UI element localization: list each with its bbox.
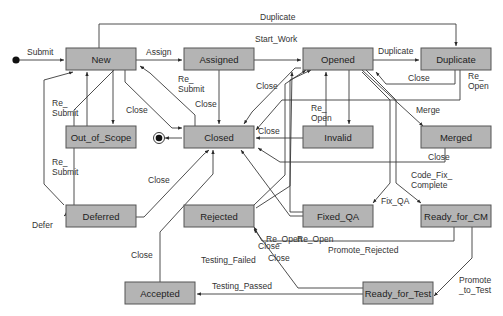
transition-label: Close bbox=[195, 99, 217, 109]
state-duplicate: Duplicate bbox=[421, 48, 491, 70]
transition-opened-close bbox=[244, 68, 301, 124]
state-merged: Merged bbox=[421, 126, 491, 148]
transition-label: Close bbox=[148, 175, 170, 185]
state-label: Merged bbox=[440, 132, 472, 143]
state-closed: Closed bbox=[184, 126, 254, 148]
transition-label: Close bbox=[258, 241, 280, 251]
state-assigned: Assigned bbox=[184, 48, 254, 70]
state-fixed-qa: Fixed_QA bbox=[303, 205, 373, 227]
transition-label: Re_Submit bbox=[52, 157, 79, 177]
transition-label: Code_Fix_Complete bbox=[411, 170, 452, 190]
state-invalid: Invalid bbox=[303, 126, 373, 148]
initial-state-icon bbox=[12, 56, 19, 63]
state-label: Ready_for_CM bbox=[424, 211, 488, 222]
transition-label: Re_Submit bbox=[52, 98, 79, 118]
transition-label: Testing_Failed bbox=[201, 255, 256, 265]
transition-label: Close bbox=[131, 250, 153, 260]
transition-label: Submit bbox=[27, 47, 54, 57]
final-state-icon bbox=[154, 133, 165, 144]
state-label: Rejected bbox=[200, 211, 238, 222]
state-label: Ready_for_Test bbox=[365, 288, 432, 299]
state-label: Deferred bbox=[83, 211, 120, 222]
transition-label: Re_Open bbox=[468, 71, 489, 91]
state-label: Duplicate bbox=[436, 54, 476, 65]
transition-rejected-close bbox=[256, 72, 292, 208]
transition-label: Promote_Rejected bbox=[328, 245, 399, 255]
state-rejected: Rejected bbox=[184, 205, 254, 227]
transition-label: Close bbox=[428, 152, 450, 162]
transition-label: Defer bbox=[32, 220, 53, 230]
state-label: Fixed_QA bbox=[317, 211, 360, 222]
transition-label: Merge bbox=[416, 105, 440, 115]
state-label: Invalid bbox=[324, 132, 351, 143]
state-out-of-scope: Out_of_Scope bbox=[66, 126, 136, 148]
state-label: Opened bbox=[321, 54, 355, 65]
transition-label: Re_Submit bbox=[178, 74, 205, 94]
transition-label: Close bbox=[408, 73, 430, 83]
state-label: New bbox=[91, 54, 110, 65]
transition-label: Re_Open bbox=[311, 103, 332, 123]
transition-label: Testing_Passed bbox=[212, 281, 272, 291]
state-ready-for-cm: Ready_for_CM bbox=[421, 205, 491, 227]
transition-label: Duplicate bbox=[260, 12, 296, 22]
state-label: Accepted bbox=[140, 288, 180, 299]
transition-label: Close bbox=[256, 81, 278, 91]
state-label: Out_of_Scope bbox=[71, 132, 132, 143]
state-ready-for-test: Ready_for_Test bbox=[363, 282, 433, 304]
transition-merged-close bbox=[258, 148, 445, 162]
state-label: Closed bbox=[204, 132, 234, 143]
transition-label: Re_Open bbox=[297, 234, 334, 244]
state-opened: Opened bbox=[303, 48, 373, 70]
transition-label: Fix_QA bbox=[381, 196, 410, 206]
transition-label: Start_Work bbox=[255, 34, 298, 44]
transition-label: Promote_to_Test bbox=[458, 275, 492, 295]
state-deferred: Deferred bbox=[66, 205, 136, 227]
transition-label: Assign bbox=[146, 47, 172, 57]
transition-label: Close bbox=[126, 105, 148, 115]
transition-new-close bbox=[125, 70, 182, 128]
state-label: Assigned bbox=[199, 54, 238, 65]
transition-label: Close bbox=[268, 253, 290, 263]
transition-label: Close bbox=[258, 126, 280, 136]
transition-label: Duplicate bbox=[378, 46, 414, 56]
state-new: New bbox=[66, 48, 136, 70]
state-accepted: Accepted bbox=[125, 282, 195, 304]
state-diagram: SubmitAssignStart_WorkDuplicateDuplicate… bbox=[0, 0, 503, 316]
